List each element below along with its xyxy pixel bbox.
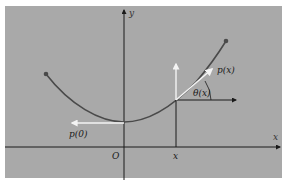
tangent-vector-diagram: y x O x p(0) p(x) θ(x) (0, 0, 288, 184)
p0-label: p(0) (69, 129, 88, 139)
px-label: p(x) (217, 65, 235, 75)
curve-right-endpoint (224, 39, 229, 44)
y-axis-label: y (128, 8, 135, 18)
curve-left-endpoint (44, 72, 49, 77)
x-axis-label: x (273, 132, 278, 142)
theta-label: θ(x) (193, 88, 211, 98)
x-point-label: x (173, 151, 178, 161)
plot-panel (5, 6, 282, 178)
origin-label: O (112, 151, 120, 161)
